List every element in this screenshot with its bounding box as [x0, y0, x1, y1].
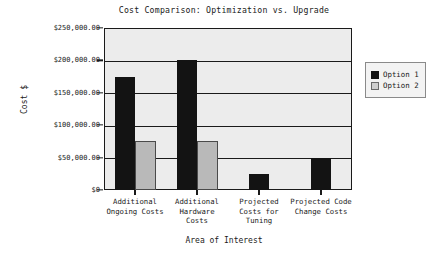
bar-1 — [177, 60, 198, 190]
bar-group — [290, 28, 352, 190]
x-tick-label: Projected CodeChange Costs — [284, 197, 358, 216]
y-tick-label: $100,000.00 — [54, 121, 100, 129]
bar-1 — [311, 158, 332, 190]
y-tick-label: $200,000.00 — [54, 56, 100, 64]
legend-item[interactable]: Option 1 — [371, 70, 419, 79]
legend-label: Option 2 — [383, 81, 419, 90]
x-tick-mark — [134, 190, 135, 195]
legend-label: Option 1 — [383, 70, 419, 79]
y-tick-label: $250,000.00 — [54, 24, 100, 32]
legend-item[interactable]: Option 2 — [371, 81, 419, 90]
bar-2 — [197, 141, 218, 190]
chart-title: Cost Comparison: Optimization vs. Upgrad… — [0, 5, 448, 15]
x-tick-mark — [258, 190, 259, 195]
chart-container: Cost Comparison: Optimization vs. Upgrad… — [0, 0, 448, 255]
bar-1 — [115, 77, 136, 190]
bar-group — [104, 28, 166, 190]
y-tick-mark — [97, 27, 103, 28]
x-axis-title: Area of Interest — [0, 236, 448, 245]
x-tick-mark — [196, 190, 197, 195]
y-tick-label: $50,000.00 — [58, 154, 100, 162]
x-tick-mark — [320, 190, 321, 195]
legend-swatch-icon — [371, 71, 379, 79]
legend: Option 1Option 2 — [365, 62, 426, 98]
y-tick-mark — [97, 92, 103, 93]
bar-group — [228, 28, 290, 190]
y-tick-mark — [97, 189, 103, 190]
bar-2 — [135, 141, 156, 190]
bar-group — [166, 28, 228, 190]
y-tick-mark — [97, 157, 103, 158]
y-axis-ticks: $0$50,000.00$100,000.00$150,000.00$200,0… — [0, 28, 100, 190]
y-tick-label: $150,000.00 — [54, 89, 100, 97]
legend-swatch-icon — [371, 82, 379, 90]
y-tick-mark — [97, 60, 103, 61]
y-tick-mark — [97, 125, 103, 126]
bars-layer — [104, 28, 352, 190]
bar-1 — [249, 174, 270, 190]
